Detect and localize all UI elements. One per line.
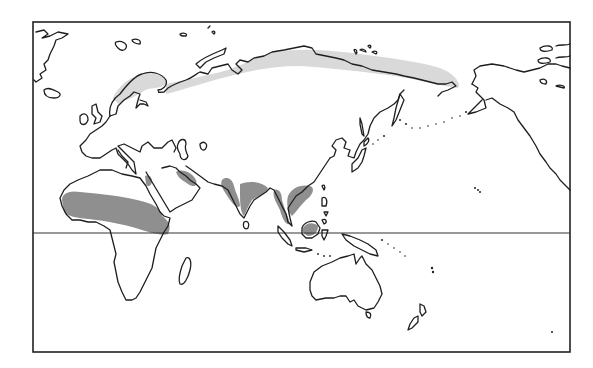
dot-hawaii (477, 189, 479, 191)
dot-kuril (399, 119, 401, 121)
dot-aleutian (419, 127, 421, 129)
dot-solomon (399, 251, 401, 253)
dot-aleutian (427, 125, 429, 127)
world-map (0, 0, 593, 368)
dot-kuril (377, 139, 379, 141)
dot-hawaii (474, 187, 476, 189)
map-canvas (0, 0, 593, 368)
dot-solomon (393, 247, 395, 249)
dot-lesser-sunda (323, 255, 325, 257)
dot-aleutian (459, 115, 461, 117)
dot-kuril (405, 123, 407, 125)
dot-fiji (432, 271, 434, 273)
dot-aleutian (443, 121, 445, 123)
dot-lesser-sunda (329, 255, 331, 257)
dot-kuril (383, 135, 385, 137)
dot-aleutian (435, 123, 437, 125)
dot-pacific-island (551, 331, 553, 333)
dot-vanuatu (404, 255, 406, 257)
dot-lesser-sunda (317, 253, 319, 255)
dot-solomon (387, 243, 389, 245)
dot-fiji (431, 267, 433, 269)
dot-solomon (381, 239, 383, 241)
dot-aleutian (411, 127, 413, 129)
dot-hawaii (479, 191, 481, 193)
dot-aleutian (465, 111, 467, 113)
dot-kuril (372, 143, 374, 145)
dot-aleutian (451, 117, 453, 119)
